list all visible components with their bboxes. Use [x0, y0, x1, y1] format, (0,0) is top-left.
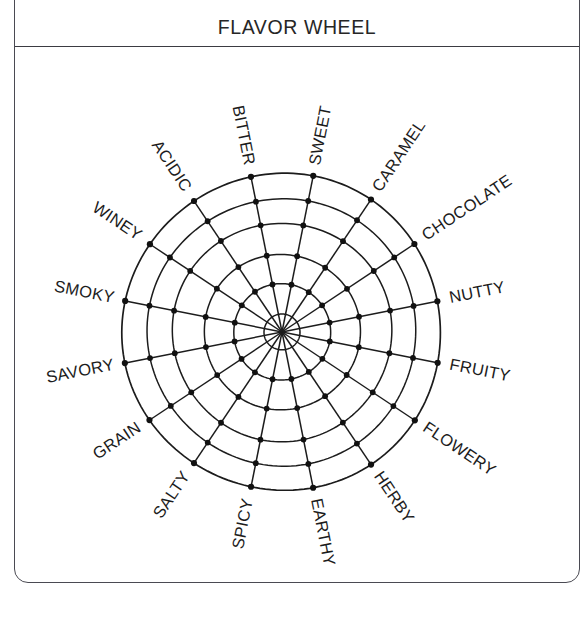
page-title: FLAVOR WHEEL — [218, 16, 377, 39]
panel-header: FLAVOR WHEEL — [15, 0, 579, 47]
panel-body — [15, 47, 579, 582]
flavor-wheel-page: FLAVOR WHEEL SWEETCARAMELCHOCOLATENUTTYF… — [0, 0, 583, 620]
flavor-wheel-panel: FLAVOR WHEEL — [14, 0, 580, 583]
